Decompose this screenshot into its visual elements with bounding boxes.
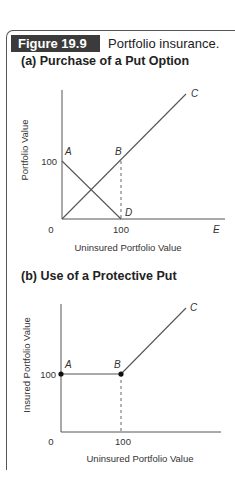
chart-b-origin-label: 0 [48,436,53,447]
chart-a-y-tick: 100 [41,156,57,167]
chart-a-ylabel: Portfolio Value [19,119,30,180]
chart-b-y-tick: 100 [40,369,56,380]
chart-a-point-d: D [125,207,132,218]
chart-b-ylabel: Insured Portfolio Value [21,317,32,412]
chart-a-point-c: C [191,88,199,99]
chart-b-x-tick: 100 [115,436,131,447]
chart-a-point-a: A [64,146,72,157]
chart-b-point-a-marker [58,371,63,376]
chart-a-stock-line [62,94,186,219]
chart-b-upside-line [121,308,186,374]
chart-b-point-b: B [114,359,121,370]
chart-b: Insured Portfolio Value 100 0 100 Uninsu… [21,302,221,464]
chart-b-point-a: A [64,359,72,370]
chart-a-x-tick: 100 [113,224,129,235]
chart-a-point-b: B [115,146,122,157]
chart-b-xlabel: Uninsured Portfolio Value [86,453,193,464]
chart-a-origin-label: 0 [48,224,53,235]
charts-svg: Portfolio Value 100 0 100 Uninsured Port… [0,0,235,489]
chart-a-point-e: E [213,224,220,235]
chart-a: Portfolio Value 100 0 100 Uninsured Port… [19,88,225,253]
chart-b-point-b-marker [118,371,123,376]
chart-b-point-c: C [190,302,198,313]
chart-a-xlabel: Uninsured Portfolio Value [74,242,181,253]
